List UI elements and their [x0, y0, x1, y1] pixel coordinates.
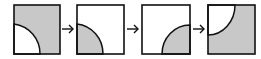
arrow-right-icon	[127, 25, 138, 33]
arrow-right-icon	[193, 25, 204, 33]
sequence-diagram	[0, 0, 261, 59]
panel-2	[77, 5, 124, 54]
arrow-right-icon	[62, 25, 73, 33]
panel-1	[14, 5, 60, 54]
panel-3	[142, 5, 190, 54]
panel-4	[208, 5, 255, 54]
